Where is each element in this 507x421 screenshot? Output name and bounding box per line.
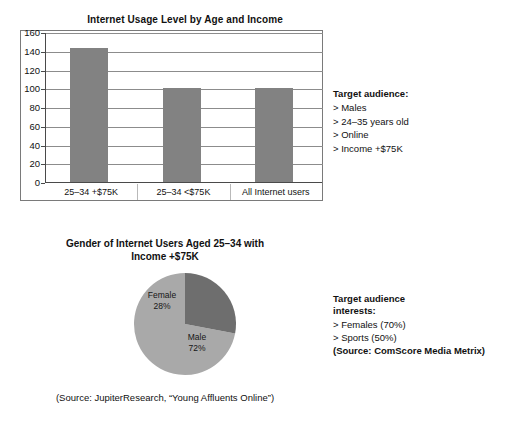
pie-chart-svg (133, 272, 237, 376)
pie-slice-label-male: Male 72% (177, 332, 217, 354)
y-axis-tick-mark (41, 52, 45, 53)
pie-chart-title-line1: Gender of Internet Users Aged 25–34 with (66, 238, 264, 249)
pie-slice-female (185, 273, 236, 334)
bar-chart-plot-area (45, 33, 322, 183)
y-axis-tick-label: 100 (14, 84, 40, 94)
target-audience-heading: Target audience: (333, 88, 503, 99)
pie-chart-source: (Source: JupiterResearch, “Young Affluen… (10, 392, 320, 403)
y-axis-tick-label: 160 (14, 28, 40, 38)
y-axis-tick-label: 0 (14, 178, 40, 188)
bar (163, 88, 201, 182)
infographic-stage: Internet Usage Level by Age and Income 0… (0, 0, 507, 421)
bar-chart-category-axis: 25–34 +$75K25–34 <$75KAll Internet users (45, 184, 322, 200)
category-divider (230, 184, 231, 200)
bar (255, 88, 293, 182)
target-audience-item-online: > Online (333, 129, 503, 140)
y-axis-tick-label: 20 (14, 159, 40, 169)
category-divider (137, 184, 138, 200)
target-interests-item-sports: > Sports (50%) (333, 332, 505, 343)
bar (70, 48, 108, 182)
target-interests-block: Target audience interests: > Females (70… (333, 293, 505, 356)
target-interests-source: (Source: ComScore Media Metrix) (333, 345, 505, 356)
y-axis-tick-mark (41, 89, 45, 90)
target-audience-item-males: > Males (333, 102, 503, 113)
target-interests-item-females: > Females (70%) (333, 319, 505, 330)
pie-slice-male-name: Male (188, 332, 206, 342)
y-axis-tick-label: 40 (14, 141, 40, 151)
target-interests-heading-line2: interests: (333, 305, 376, 316)
pie-chart-graphic (133, 272, 237, 376)
target-interests-heading-line1: Target audience (333, 293, 405, 304)
pie-chart-panel: Gender of Internet Users Aged 25–34 with… (0, 232, 330, 421)
y-axis-tick-mark (41, 71, 45, 72)
pie-slice-male-value: 72% (188, 343, 205, 353)
target-audience-block: Target audience: > Males > 24–35 years o… (333, 88, 503, 156)
pie-slice-female-value: 28% (153, 301, 170, 311)
y-axis-tick-label: 80 (14, 103, 40, 113)
target-interests-heading: Target audience interests: (333, 293, 505, 317)
category-label: All Internet users (230, 184, 322, 200)
y-axis-tick-label: 140 (14, 47, 40, 57)
y-axis-tick-mark (41, 127, 45, 128)
bar-chart-title: Internet Usage Level by Age and Income (45, 14, 325, 25)
target-audience-item-age: > 24–35 years old (333, 116, 503, 127)
y-axis-tick-label: 120 (14, 66, 40, 76)
y-axis-tick-mark (41, 164, 45, 165)
y-axis-tick-mark (41, 108, 45, 109)
y-axis-tick-mark (41, 146, 45, 147)
y-axis-tick-mark (41, 33, 45, 34)
category-label: 25–34 <$75K (137, 184, 229, 200)
pie-slice-label-female: Female 28% (139, 290, 185, 312)
pie-slice-female-name: Female (148, 290, 176, 300)
pie-chart-title-line2: Income +$75K (131, 251, 199, 262)
y-axis-tick-label: 60 (14, 122, 40, 132)
target-audience-item-income: > Income +$75K (333, 143, 503, 154)
gridline (46, 33, 323, 34)
category-label: 25–34 +$75K (45, 184, 137, 200)
pie-chart-title: Gender of Internet Users Aged 25–34 with… (20, 237, 310, 263)
